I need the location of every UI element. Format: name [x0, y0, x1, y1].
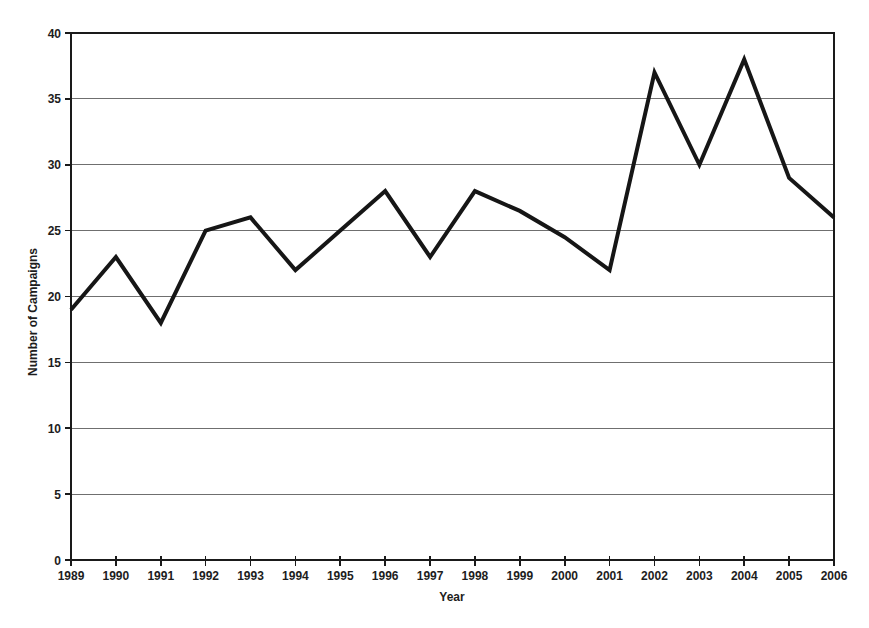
x-tick-label-2000: 2000 — [551, 569, 578, 583]
x-tick-label-2004: 2004 — [731, 569, 758, 583]
x-tick-label-1992: 1992 — [192, 569, 219, 583]
y-tick-label-25: 25 — [48, 224, 62, 238]
x-tick-label-1998: 1998 — [462, 569, 489, 583]
y-tick-label-35: 35 — [48, 92, 62, 106]
x-tick-label-1990: 1990 — [103, 569, 130, 583]
x-tick-label-2002: 2002 — [641, 569, 668, 583]
x-tick-label-1995: 1995 — [327, 569, 354, 583]
x-tick-label-2006: 2006 — [821, 569, 848, 583]
y-tick-label-10: 10 — [48, 422, 62, 436]
y-tick-label-5: 5 — [54, 488, 61, 502]
y-tick-label-30: 30 — [48, 158, 62, 172]
x-tick-label-1999: 1999 — [506, 569, 533, 583]
x-tick-label-1996: 1996 — [372, 569, 399, 583]
x-tick-label-2005: 2005 — [776, 569, 803, 583]
x-tick-label-2001: 2001 — [596, 569, 623, 583]
x-tick-label-1993: 1993 — [237, 569, 264, 583]
y-tick-label-20: 20 — [48, 290, 62, 304]
x-tick-label-1994: 1994 — [282, 569, 309, 583]
y-tick-label-40: 40 — [48, 27, 62, 41]
y-axis-title: Number of Campaigns — [26, 248, 40, 376]
y-tick-label-0: 0 — [54, 554, 61, 568]
chart-canvas: 0510152025303540198919901991199219931994… — [0, 0, 869, 628]
x-tick-label-1989: 1989 — [58, 569, 85, 583]
x-tick-label-1991: 1991 — [147, 569, 174, 583]
x-tick-label-1997: 1997 — [417, 569, 444, 583]
y-tick-label-15: 15 — [48, 356, 62, 370]
x-tick-label-2003: 2003 — [686, 569, 713, 583]
campaigns-line-chart-figure: 0510152025303540198919901991199219931994… — [0, 0, 869, 628]
x-axis-title: Year — [439, 590, 464, 604]
